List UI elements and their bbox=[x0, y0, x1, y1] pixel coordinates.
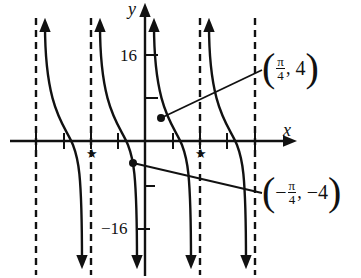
y-value: −4 bbox=[307, 182, 328, 202]
y-value: 4 bbox=[295, 58, 305, 78]
denominator: 4 bbox=[289, 193, 296, 206]
denominator: 4 bbox=[277, 69, 284, 82]
point-b-label: ( − π 4 , −4 ) bbox=[262, 172, 341, 212]
point-a-label: ( π 4 , 4 ) bbox=[262, 48, 319, 88]
minus-sign: − bbox=[275, 182, 286, 202]
fraction-pi-over-4: π 4 bbox=[276, 55, 285, 82]
paren-open: ( bbox=[262, 48, 275, 88]
paren-close: ) bbox=[305, 48, 318, 88]
y-tick-label-16: 16 bbox=[120, 47, 137, 64]
x-axis-label: x bbox=[283, 121, 291, 139]
point-a-dot bbox=[157, 114, 165, 122]
graph-canvas bbox=[0, 0, 361, 278]
star-marker-left: ★ bbox=[86, 147, 98, 160]
fraction-pi-over-4: π 4 bbox=[288, 179, 297, 206]
y-tick-label-neg16: −16 bbox=[101, 220, 128, 237]
separator: , bbox=[297, 183, 302, 201]
point-b-dot bbox=[129, 159, 137, 167]
numerator: π bbox=[288, 179, 297, 193]
star-marker-right: ★ bbox=[195, 147, 207, 160]
separator: , bbox=[286, 59, 291, 77]
numerator: π bbox=[276, 55, 285, 69]
paren-close: ) bbox=[328, 172, 341, 212]
y-axis-label: y bbox=[128, 0, 136, 18]
paren-open: ( bbox=[262, 172, 275, 212]
